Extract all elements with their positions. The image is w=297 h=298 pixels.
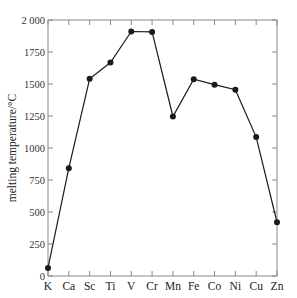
- plot-frame: [48, 20, 277, 276]
- y-tick-label: 1250: [24, 111, 45, 122]
- y-tick-label: 250: [29, 239, 45, 250]
- x-category-label: Ti: [106, 280, 116, 292]
- x-category-label: Cu: [249, 280, 263, 292]
- plot-border: [48, 20, 277, 276]
- data-point-marker: [191, 76, 197, 82]
- series-line: [48, 32, 277, 268]
- y-tick-label: 1500: [24, 79, 45, 90]
- y-tick-label: 1000: [24, 143, 45, 154]
- x-category-label: Cr: [146, 280, 158, 292]
- x-category-label: Ca: [62, 280, 75, 292]
- x-category-label: Fe: [188, 280, 200, 292]
- x-category-label: K: [44, 280, 53, 292]
- y-axis-title: melting temperature/°C: [6, 93, 19, 202]
- data-point-marker: [274, 219, 280, 225]
- x-category-label: Ni: [230, 280, 242, 292]
- data-point-marker: [128, 29, 134, 35]
- melting-point-chart: 025050075010001250150017502 000 KCaScTiV…: [0, 0, 297, 298]
- x-category-label: Co: [208, 280, 222, 292]
- x-category-label: Zn: [271, 280, 284, 292]
- data-point-marker: [87, 76, 93, 82]
- data-point-marker: [170, 114, 176, 120]
- x-category-label: Sc: [84, 280, 96, 292]
- data-point-marker: [107, 59, 113, 65]
- data-series: [45, 29, 280, 271]
- y-axis: 025050075010001250150017502 000: [21, 15, 277, 282]
- y-tick-label: 2 000: [21, 15, 45, 26]
- data-point-marker: [253, 134, 259, 140]
- data-point-marker: [232, 87, 238, 93]
- y-tick-label: 500: [29, 207, 45, 218]
- y-tick-label: 750: [29, 175, 45, 186]
- x-category-label: Mn: [165, 280, 181, 292]
- data-point-marker: [149, 29, 155, 35]
- data-point-marker: [212, 82, 218, 88]
- y-tick-label: 1750: [24, 47, 45, 58]
- x-category-label: V: [127, 280, 136, 292]
- x-axis: KCaScTiVCrMnFeCoNiCuZn: [44, 20, 284, 292]
- data-point-marker: [66, 165, 72, 171]
- data-point-marker: [45, 265, 51, 271]
